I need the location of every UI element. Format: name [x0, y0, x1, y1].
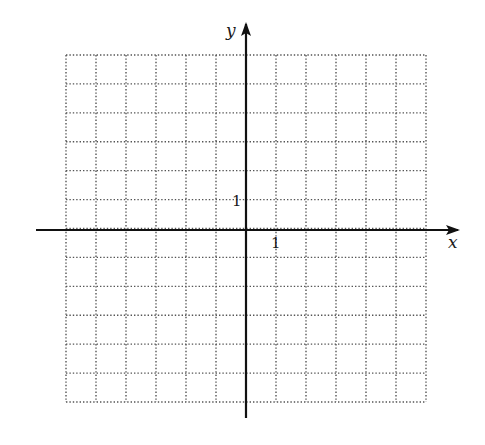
y-axis-label: y [225, 20, 236, 40]
x-axis-label: x [448, 232, 458, 252]
x-tick-label-1: 1 [271, 234, 281, 252]
y-tick-label-1: 1 [232, 192, 242, 210]
coordinate-plane: y x 1 1 [0, 0, 485, 445]
